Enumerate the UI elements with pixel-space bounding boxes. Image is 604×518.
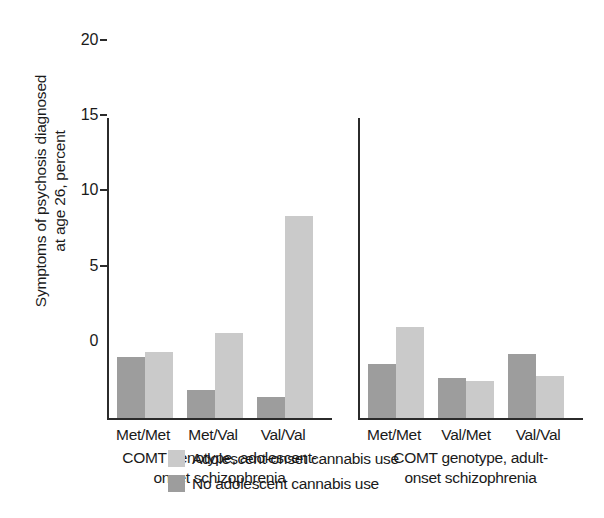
legend-swatch-icon bbox=[168, 450, 185, 467]
legend-item-no-adolescent-cannabis-use: No adolescent cannabis use bbox=[168, 471, 498, 496]
bar-adolescent-onset-val-val-cannabis bbox=[285, 216, 313, 419]
y-tick-mark bbox=[100, 189, 107, 191]
bar-adolescent-onset-val-val-no-cannabis bbox=[257, 397, 285, 418]
x-tick-labels-left: Met/Met Met/Val Val/Val bbox=[107, 424, 332, 446]
x-tick-labels-right: Met/Met Val/Met Val/Val bbox=[358, 424, 583, 446]
legend-label: Adolescent-onset cannabis use bbox=[192, 450, 399, 468]
bar-adolescent-onset-met-val-cannabis bbox=[215, 333, 243, 419]
bar-adolescent-onset-met-met-no-cannabis bbox=[117, 357, 145, 419]
bar-adult-onset-met-met-cannabis bbox=[396, 327, 424, 419]
bar-adult-onset-met-met-no-cannabis bbox=[368, 364, 396, 418]
legend-item-adolescent-onset-cannabis-use: Adolescent-onset cannabis use bbox=[168, 446, 498, 471]
bar-adult-onset-val-met-no-cannabis bbox=[438, 378, 466, 419]
bar-adult-onset-val-met-cannabis bbox=[466, 381, 494, 419]
legend-label: No adolescent cannabis use bbox=[192, 475, 379, 493]
x-tick-label: Met/Met bbox=[367, 424, 421, 445]
y-axis-label-line1: Symptoms of psychosis diagnosed bbox=[32, 75, 49, 307]
bar-adult-onset-val-val-cannabis bbox=[536, 376, 564, 418]
x-tick-label: Met/Met bbox=[116, 424, 170, 445]
bar-adolescent-onset-met-met-cannabis bbox=[145, 352, 173, 418]
plot-area-right bbox=[358, 118, 583, 420]
x-tick-label: Val/Met bbox=[441, 424, 490, 445]
x-tick-label: Met/Val bbox=[188, 424, 237, 445]
bar-adult-onset-val-val-no-cannabis bbox=[508, 354, 536, 419]
legend-swatch-icon bbox=[168, 475, 185, 492]
bar-group-left bbox=[107, 118, 332, 418]
y-tick-mark bbox=[100, 39, 107, 41]
x-tick-label: Val/Val bbox=[261, 424, 306, 445]
x-axis-line-right bbox=[358, 418, 583, 420]
y-axis-ticks: 20 15 10 5 0 bbox=[56, 0, 107, 400]
y-tick-mark bbox=[100, 265, 107, 267]
x-tick-label: Val/Val bbox=[516, 424, 561, 445]
y-tick-mark bbox=[100, 114, 107, 116]
x-axis-line-left bbox=[107, 418, 332, 420]
chart-legend: Adolescent-onset cannabis use No adolesc… bbox=[168, 446, 498, 496]
plot-area-left bbox=[107, 118, 332, 420]
bar-group-right bbox=[358, 118, 583, 418]
chart-figure: Symptoms of psychosis diagnosed at age 2… bbox=[0, 0, 604, 518]
bar-adolescent-onset-met-val-no-cannabis bbox=[187, 390, 215, 419]
